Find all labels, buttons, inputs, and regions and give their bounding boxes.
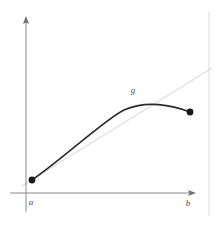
tick-label-b: b (186, 198, 191, 208)
function-graph-figure: g a b (0, 0, 218, 225)
secant-chord-line (22, 68, 212, 186)
endpoint-a (29, 177, 36, 184)
function-curve-g (32, 104, 190, 180)
tick-label-a: a (29, 197, 34, 207)
figure-container: g a b (0, 0, 218, 225)
curve-label-g: g (131, 85, 136, 95)
endpoint-b (187, 109, 194, 116)
